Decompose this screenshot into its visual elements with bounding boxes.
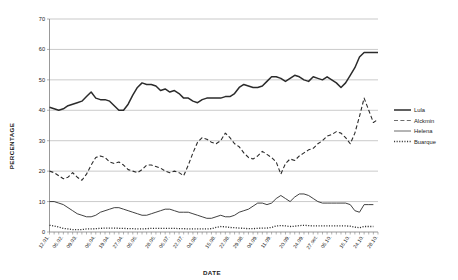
x-tick-label: 24.09. (292, 234, 305, 249)
y-tick-label: 10 (39, 199, 45, 205)
y-axis-ticks: 010203040506070 (39, 16, 50, 235)
x-axis-title: DATE (203, 269, 221, 276)
x-tick-label: 27.04. (111, 234, 124, 249)
x-tick-label: 09.03. (65, 234, 78, 249)
x-tick-label: 05.06. (125, 234, 138, 249)
x-tick-label: 12.01. (37, 234, 50, 249)
x-tick-label: 20.09. (278, 234, 291, 249)
x-tick-label: 06.04. (83, 234, 96, 249)
y-tick-label: 70 (39, 16, 45, 22)
y-tick-label: 30 (39, 138, 45, 144)
y-tick-label: 60 (39, 46, 45, 52)
y-axis-title: PERCENTAGE (8, 123, 15, 170)
legend-label-buarque: Buarque (414, 139, 436, 145)
x-tick-label: 04.08. (185, 234, 198, 249)
x-tick-label: 15.08. (204, 234, 217, 249)
series-line-buarque (50, 225, 374, 229)
x-tick-label: 22.08. (218, 234, 231, 249)
x-tick-label: 29.08. (231, 234, 244, 249)
chart-legend: LulaAlckminHelenaBuarque (394, 107, 436, 145)
x-tick-label: 11.09. (259, 234, 272, 249)
series-line-helena (50, 194, 374, 218)
gridlines (50, 19, 379, 202)
x-tick-label: 05.10. (319, 234, 332, 249)
x-tick-label: 16.10. (338, 234, 351, 249)
x-tick-label: 27.set. (305, 234, 319, 250)
legend-label-lula: Lula (414, 107, 426, 113)
line-chart: 010203040506070 12.01.06.02.09.03.06.04.… (0, 0, 458, 280)
x-tick-label: 28.10. (366, 234, 379, 249)
y-tick-label: 50 (39, 77, 45, 83)
x-tick-label: 06.07. (157, 234, 170, 249)
x-tick-label: 06.02. (51, 234, 64, 249)
y-tick-label: 20 (39, 168, 45, 174)
chart-canvas: 010203040506070 12.01.06.02.09.03.06.04.… (0, 0, 458, 280)
x-axis-ticks: 12.01.06.02.09.03.06.04.19.04.27.04.05.0… (37, 232, 379, 250)
x-tick-label: 24.10. (352, 234, 365, 249)
x-tick-label: 19.04. (97, 234, 110, 249)
legend-label-alckmin: Alckmin (414, 118, 434, 124)
legend-label-helena: Helena (414, 128, 433, 134)
x-tick-label: 22.07. (171, 234, 184, 249)
series-line-lula (50, 52, 379, 110)
x-tick-label: 28.06. (144, 234, 157, 249)
x-tick-label: 04.09. (245, 234, 258, 249)
y-tick-label: 40 (39, 107, 45, 113)
